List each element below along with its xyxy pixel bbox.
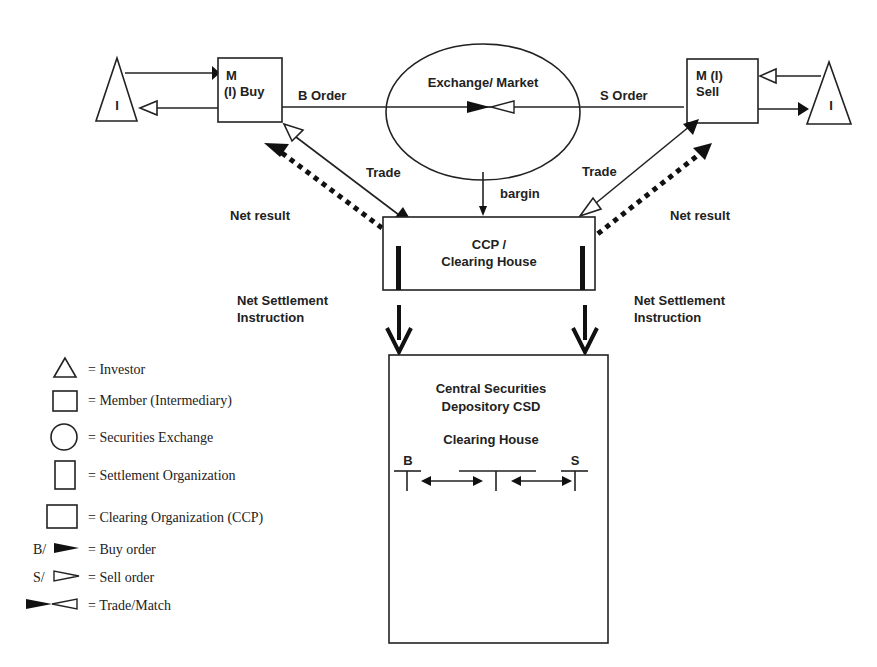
legend-item-member: = Member (Intermediary)	[53, 391, 232, 411]
svg-text:= Clearing Organization (CCP): = Clearing Organization (CCP)	[88, 510, 264, 526]
svg-text:Instruction: Instruction	[634, 310, 701, 325]
legend-item-trade-match: = Trade/Match	[26, 598, 171, 613]
member-sell-node: M (I) Sell	[687, 59, 758, 123]
filled-arrowhead-icon	[798, 102, 809, 116]
svg-text:= Buy order: = Buy order	[88, 542, 156, 557]
svg-text:Clearing House: Clearing House	[441, 254, 536, 269]
svg-text:= Investor: = Investor	[88, 362, 146, 377]
net-result-left-line	[278, 150, 390, 234]
svg-text:B Order: B Order	[298, 88, 346, 103]
filled-arrow-icon	[54, 543, 79, 553]
bowtie-icon	[26, 599, 52, 609]
square-icon	[53, 391, 77, 411]
svg-text:Clearing House: Clearing House	[443, 432, 538, 447]
svg-text:= Member (Intermediary): = Member (Intermediary)	[88, 393, 232, 409]
svg-text:Exchange/ Market: Exchange/ Market	[428, 75, 539, 90]
svg-text:(I) Buy: (I) Buy	[224, 84, 265, 99]
svg-text:Trade: Trade	[366, 165, 401, 180]
settlement-bar-left	[396, 246, 401, 290]
settlement-bar-right	[580, 246, 585, 290]
svg-text:S/: S/	[33, 570, 45, 585]
legend-item-investor: = Investor	[54, 358, 146, 377]
circle-icon	[51, 424, 77, 450]
svg-text:Net Settlement: Net Settlement	[237, 293, 329, 308]
svg-text:= Securities Exchange: = Securities Exchange	[88, 430, 213, 445]
legend-item-sell-order: S/ = Sell order	[33, 570, 155, 585]
legend-item-ccp: = Clearing Organization (CCP)	[47, 505, 264, 528]
svg-text:Net Settlement: Net Settlement	[634, 293, 726, 308]
legend-item-buy-order: B/ = Buy order	[33, 542, 156, 557]
svg-text:S Order: S Order	[600, 88, 648, 103]
svg-text:= Trade/Match: = Trade/Match	[88, 598, 171, 613]
csd-node: Central Securities Depository CSD Cleari…	[389, 355, 608, 643]
svg-text:CCP /: CCP /	[472, 237, 507, 252]
svg-text:M: M	[226, 68, 237, 83]
svg-text:I: I	[115, 98, 119, 113]
hollow-arrowhead-icon	[140, 101, 157, 115]
clearing-settlement-diagram: I M (I) Buy Exchange/ Market B Order S O…	[0, 0, 877, 667]
ccp-node: CCP / Clearing House	[383, 217, 595, 290]
hollow-arrowhead-icon	[284, 124, 303, 141]
svg-text:= Sell order: = Sell order	[88, 570, 155, 585]
legend-item-settlement: = Settlement Organization	[55, 461, 236, 489]
hollow-arrow-icon	[54, 571, 79, 581]
svg-text:B: B	[403, 453, 412, 468]
tall-rect-icon	[55, 461, 75, 489]
investor-right-node: I	[807, 62, 851, 124]
svg-text:Instruction: Instruction	[237, 310, 304, 325]
triangle-icon	[807, 62, 851, 124]
svg-text:Central Securities: Central Securities	[436, 381, 547, 396]
svg-text:I: I	[829, 98, 833, 113]
member-buy-node: M (I) Buy	[218, 58, 282, 122]
svg-text:Depository CSD: Depository CSD	[442, 399, 541, 414]
svg-text:= Settlement Organization: = Settlement Organization	[88, 468, 236, 483]
hollow-arrowhead-icon	[760, 69, 776, 83]
legend-item-exchange: = Securities Exchange	[51, 424, 213, 450]
svg-text:Sell: Sell	[696, 84, 719, 99]
svg-text:bargin: bargin	[500, 186, 540, 201]
svg-text:B/: B/	[33, 542, 46, 557]
svg-text:Net result: Net result	[230, 208, 291, 223]
triangle-icon	[54, 358, 76, 377]
svg-text:M (I): M (I)	[696, 68, 723, 83]
svg-text:S: S	[571, 453, 580, 468]
svg-text:Net result: Net result	[670, 208, 731, 223]
investor-left-node: I	[96, 58, 137, 121]
svg-text:Trade: Trade	[582, 164, 617, 179]
exchange-node: Exchange/ Market	[386, 44, 580, 180]
wide-rect-icon	[47, 505, 77, 528]
legend: = Investor = Member (Intermediary) = Sec…	[26, 358, 264, 613]
